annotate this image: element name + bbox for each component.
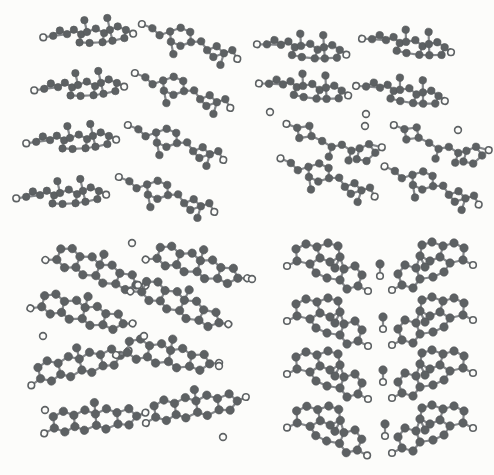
carbon-atom (418, 241, 426, 249)
carbon-atom (49, 32, 57, 40)
carbon-atom (340, 320, 348, 328)
carbon-atom (351, 262, 359, 270)
oxygen-atom (381, 163, 389, 171)
carbon-atom (54, 83, 62, 91)
carbon-atom (63, 122, 71, 130)
carbon-atom (440, 376, 448, 384)
carbon-atom (59, 145, 67, 153)
crystal-packing-figure (0, 0, 494, 475)
carbon-atom (77, 92, 85, 100)
carbon-atom (306, 315, 314, 323)
carbon-atom (440, 431, 448, 439)
carbon-atom (312, 324, 320, 332)
carbon-atom (61, 79, 69, 87)
carbon-atom (421, 263, 429, 271)
oxygen-atom (365, 288, 372, 295)
carbon-atom (428, 401, 436, 409)
oxygen-atom (389, 342, 396, 349)
carbon-atom (324, 402, 333, 411)
carbon-atom (459, 256, 467, 264)
carbon-atom (43, 357, 52, 366)
carbon-atom (114, 23, 122, 31)
carbon-atom (71, 69, 79, 77)
carbon-atom (436, 361, 444, 369)
carbon-atom (340, 373, 348, 381)
carbon-atom (94, 67, 102, 75)
carbon-atom (412, 427, 420, 435)
carbon-atom (82, 198, 90, 206)
water-oxygen (363, 111, 370, 118)
carbon-atom (381, 420, 389, 428)
carbon-atom (334, 405, 343, 414)
carbon-atom (401, 316, 409, 324)
carbon-atom (322, 437, 331, 446)
carbon-atom (53, 177, 61, 185)
carbon-atom (376, 260, 384, 268)
oxygen-atom (380, 326, 387, 333)
carbon-atom (347, 147, 355, 155)
carbon-atom (334, 297, 342, 305)
carbon-atom (418, 404, 426, 412)
carbon-atom (353, 155, 361, 163)
carbon-atom (312, 269, 320, 277)
water-oxygen (216, 363, 223, 370)
carbon-atom (113, 79, 121, 87)
carbon-atom (120, 34, 128, 42)
carbon-atom (331, 319, 339, 327)
oxygen-atom (28, 382, 35, 389)
carbon-atom (64, 352, 73, 361)
oxygen-atom (358, 35, 365, 42)
carbon-atom (39, 133, 47, 141)
carbon-atom (67, 92, 75, 100)
carbon-atom (436, 308, 444, 316)
oxygen-atom (365, 396, 372, 403)
carbon-atom (99, 38, 107, 46)
carbon-atom (75, 355, 84, 364)
water-oxygen (129, 240, 136, 247)
carbon-atom (336, 308, 344, 316)
oxygen-atom (389, 395, 396, 402)
carbon-atom (450, 294, 458, 302)
oxygen-atom (23, 140, 30, 147)
carbon-atom (69, 145, 77, 153)
carbon-atom (439, 297, 447, 305)
carbon-atom (53, 132, 61, 140)
oxygen-atom (344, 92, 351, 99)
carbon-atom (293, 257, 301, 265)
carbon-atom (74, 81, 82, 89)
oxygen-atom (485, 146, 492, 153)
figure-canvas (0, 0, 494, 475)
carbon-atom (460, 299, 468, 307)
carbon-atom (416, 383, 424, 391)
oxygen-atom (284, 263, 291, 270)
oxygen-atom (475, 201, 483, 209)
carbon-atom (331, 372, 339, 380)
carbon-atom (429, 436, 437, 444)
carbon-atom (440, 323, 448, 331)
carbon-atom (436, 416, 444, 424)
carbon-atom (398, 336, 406, 344)
oxygen-atom (352, 82, 360, 90)
carbon-atom (83, 78, 91, 86)
oxygen-atom (343, 51, 350, 58)
carbon-atom (46, 136, 54, 144)
carbon-atom (97, 129, 105, 137)
oxygen-atom (121, 83, 128, 90)
carbon-atom (306, 260, 314, 268)
carbon-atom (323, 382, 331, 390)
carbon-atom (292, 300, 300, 308)
carbon-atom (86, 39, 94, 47)
carbon-atom (293, 365, 301, 373)
carbon-atom (100, 90, 108, 98)
carbon-atom (328, 143, 336, 151)
carbon-atom (363, 157, 371, 165)
carbon-atom (365, 140, 373, 148)
carbon-atom (394, 325, 402, 333)
carbon-atom (63, 30, 71, 38)
carbon-atom (313, 298, 321, 306)
carbon-atom (343, 340, 351, 348)
carbon-atom (76, 175, 84, 183)
carbon-atom (292, 245, 300, 253)
carbon-atom (80, 16, 88, 24)
carbon-atom (336, 416, 345, 425)
